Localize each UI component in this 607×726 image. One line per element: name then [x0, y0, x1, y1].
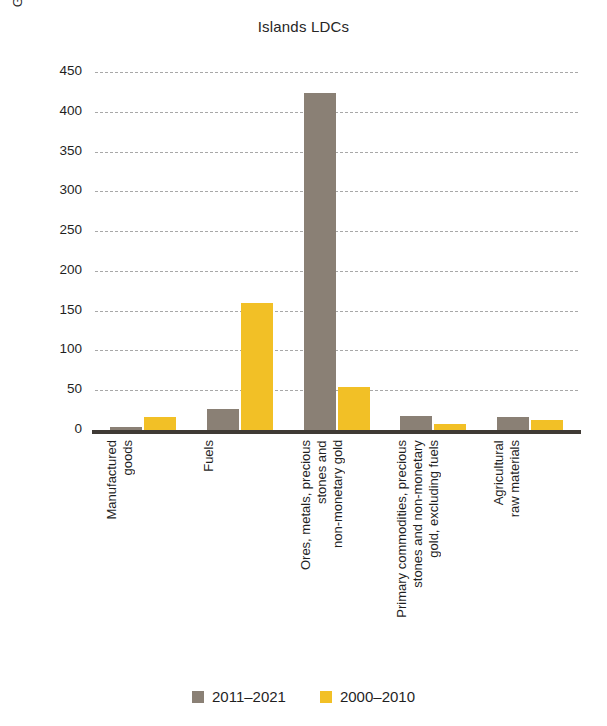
- gridline: [95, 390, 578, 391]
- bar: [207, 409, 239, 430]
- bar: [400, 416, 432, 430]
- gridline: [95, 72, 578, 73]
- x-axis-line: [92, 430, 581, 434]
- x-category-label: Agricultural raw materials: [491, 440, 523, 517]
- bar: [241, 303, 273, 430]
- gridline: [95, 191, 578, 192]
- y-tick-label: 50: [42, 381, 82, 396]
- plot-area: [95, 72, 578, 430]
- gridline: [95, 271, 578, 272]
- legend-label: 2000–2010: [340, 688, 415, 705]
- legend-swatch-icon: [320, 691, 332, 703]
- gridline: [95, 350, 578, 351]
- y-tick-label: 100: [42, 341, 82, 356]
- gridline: [95, 152, 578, 153]
- x-category-label: Manufactured goods: [104, 440, 136, 520]
- chart-legend: 2011–20212000–2010: [0, 688, 607, 705]
- y-axis-title: Growth rate, per cent (average): [8, 0, 28, 92]
- gridline: [95, 112, 578, 113]
- x-category-label: Ores, metals, precious stones and non-mo…: [298, 440, 346, 570]
- bar: [497, 417, 529, 430]
- y-tick-label: 250: [42, 222, 82, 237]
- bar: [144, 417, 176, 430]
- bar: [531, 420, 563, 430]
- x-category-label: Primary commodities, precious stones and…: [394, 440, 442, 618]
- gridline: [95, 231, 578, 232]
- y-tick-label: 350: [42, 143, 82, 158]
- bar: [338, 387, 370, 430]
- bar: [304, 93, 336, 430]
- legend-item[interactable]: 2011–2021: [192, 688, 286, 705]
- y-tick-label: 200: [42, 262, 82, 277]
- y-tick-label: 150: [42, 302, 82, 317]
- chart-title: Islands LDCs: [0, 18, 607, 35]
- legend-item[interactable]: 2000–2010: [320, 688, 415, 705]
- y-tick-label: 0: [42, 421, 82, 436]
- y-tick-label: 450: [42, 63, 82, 78]
- gridline: [95, 311, 578, 312]
- y-tick-label: 300: [42, 182, 82, 197]
- legend-swatch-icon: [192, 691, 204, 703]
- x-category-label: Fuels: [201, 440, 217, 472]
- legend-label: 2011–2021: [212, 688, 286, 705]
- y-tick-label: 400: [42, 103, 82, 118]
